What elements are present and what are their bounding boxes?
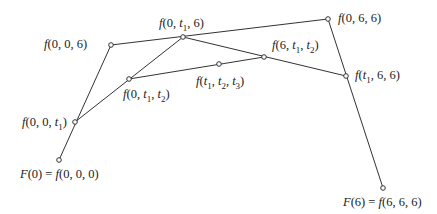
label-ft1t2t3: f(t1, t2, t3) — [196, 75, 244, 91]
edge-p066-p666 — [328, 19, 383, 188]
point-p0t1t2 — [127, 77, 132, 82]
label-f6t1t2: f(6, t1, t2) — [272, 39, 319, 55]
label-F0: F(0) = f(0, 0, 0) — [20, 168, 99, 181]
label-f006: f(0, 0, 6) — [44, 38, 87, 51]
label-f066: f(0, 6, 6) — [338, 12, 381, 25]
edge-p000-p006 — [59, 45, 111, 160]
point-p000 — [57, 158, 62, 163]
point-pt1t2t3 — [217, 62, 222, 67]
label-F6: F(6) = f(6, 6, 6) — [343, 196, 422, 209]
diagram-canvas — [0, 0, 437, 214]
point-p666 — [381, 186, 386, 191]
point-p006 — [109, 43, 114, 48]
label-f0t16: f(0, t1, 6) — [159, 17, 204, 33]
label-f0t1t2: f(0, t1, t2) — [123, 88, 170, 104]
point-p0t16 — [181, 35, 186, 40]
point-p00t1 — [73, 120, 78, 125]
point-p6t1t2 — [262, 55, 267, 60]
point-pt166 — [344, 74, 349, 79]
point-p066 — [326, 17, 331, 22]
label-f00t1: f(0, 0, t1) — [22, 116, 67, 132]
label-ft166: f(t1, 6, 6) — [355, 69, 400, 85]
